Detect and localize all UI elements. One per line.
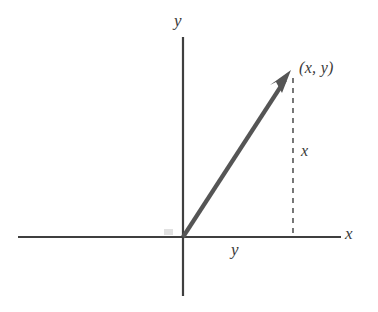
x-axis-label: x <box>345 225 353 242</box>
y-axis-label: y <box>174 12 182 29</box>
vector-diagram-figure: y x (x, y) x y <box>0 0 378 312</box>
point-coordinates-label: (x, y) <box>299 60 334 76</box>
vector-shaft <box>183 80 285 237</box>
scan-artifact <box>164 229 173 235</box>
vector-arrowhead <box>270 70 291 93</box>
vertical-component-label: x <box>301 143 308 159</box>
diagram-canvas <box>0 0 378 312</box>
horizontal-component-label: y <box>231 241 239 258</box>
